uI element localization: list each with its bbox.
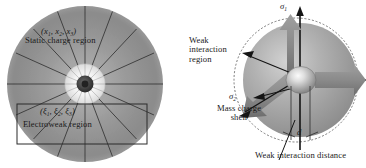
mass-charge-shell-sphere: [286, 67, 316, 94]
xi-sub-2: 2: [58, 111, 61, 117]
xi-sub-1: 1: [47, 111, 50, 117]
right-panel-graphic: [183, 0, 366, 168]
right-panel-mass-charge-shell: σ1 Weak interaction region σ2 Mass charg…: [183, 0, 366, 168]
xi-sep-1: , ξ: [50, 106, 58, 116]
sigma1-axis-arrowhead: [296, 6, 304, 16]
static-charge-region-label: Static charge region: [25, 36, 96, 45]
xi-open: (ξ: [40, 106, 47, 116]
left-panel-static-charge-region: (x1, x2, x3) Static charge region (ξ1, ξ…: [0, 0, 183, 168]
xi-sep-2: , ξ: [61, 106, 69, 116]
coordinate-label-xi: (ξ1, ξ2, ξ3): [40, 107, 75, 116]
mass-charge-shell-label: Mass charge shell: [210, 104, 268, 123]
sigma-1-label: σ1: [280, 2, 287, 11]
weak-interaction-distance-label: Weak interaction distance: [255, 151, 346, 160]
sigma-2-subscript: 2: [233, 96, 236, 102]
left-panel-graphic: [0, 0, 183, 168]
distance-marker-d: d: [297, 128, 301, 137]
figure-container: (x1, x2, x3) Static charge region (ξ1, ξ…: [0, 0, 366, 168]
electroweak-region-label: Electroweak region: [23, 120, 92, 129]
xi-sub-3: 3: [69, 111, 72, 117]
sigma-1-subscript: 1: [284, 6, 287, 12]
sigma-2-label: σ2: [229, 92, 236, 101]
weak-interaction-region-label: Weak interaction region: [189, 36, 241, 64]
xi-close: ): [72, 106, 75, 116]
core-inner-dot: [82, 81, 89, 88]
